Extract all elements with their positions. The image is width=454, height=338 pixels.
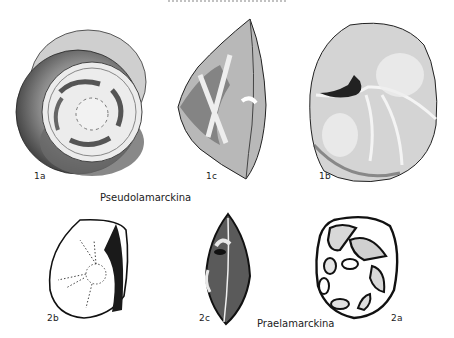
specimen-1c-drawing — [160, 15, 280, 190]
figure-label-1c: 1c — [206, 171, 217, 181]
figure-label-2c: 2c — [199, 313, 210, 323]
figure-plate: 1a 1c 1b Pseudolamarckina 2b 2c Prae — [0, 0, 454, 338]
figure-label-1a: 1a — [34, 171, 46, 181]
specimen-2a-drawing — [290, 200, 454, 338]
specimen-1a-drawing — [0, 20, 160, 190]
specimen-2b-drawing — [0, 200, 160, 338]
figure-label-2a: 2a — [391, 313, 403, 323]
figure-label-1b: 1b — [319, 171, 331, 181]
figure-label-2b: 2b — [47, 313, 59, 323]
cropped-header-text — [168, 0, 286, 6]
specimen-1b-drawing — [290, 15, 454, 190]
